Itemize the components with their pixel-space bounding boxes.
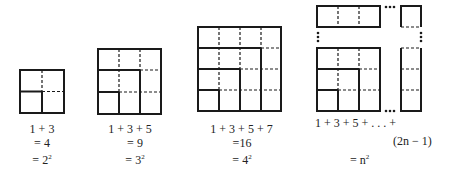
square-3x3 (98, 49, 161, 114)
square-2x2 (20, 70, 64, 113)
panel-4-last-term: (2n − 1) (393, 135, 432, 148)
panel-2-value: = 9 (100, 137, 170, 150)
panel-2-square: = 32 (100, 151, 170, 167)
panel-4-square: = n2 (350, 151, 369, 167)
panel-1-square: = 22 (12, 151, 72, 167)
panel-2-sum: 1 + 3 + 5 (95, 123, 165, 136)
panel-1-value: = 4 (12, 137, 72, 150)
panel-3-value: =16 (202, 137, 282, 150)
square-nxn (317, 6, 421, 111)
panel-1-sum: 1 + 3 (12, 123, 72, 136)
panel-3-sum: 1 + 3 + 5 + 7 (194, 123, 289, 136)
ellipsis-dots (317, 6, 423, 113)
panel-3-square: = 42 (202, 151, 282, 167)
panel-4-sum: 1 + 3 + 5 + . . . + (315, 117, 396, 130)
square-4x4 (198, 27, 281, 111)
